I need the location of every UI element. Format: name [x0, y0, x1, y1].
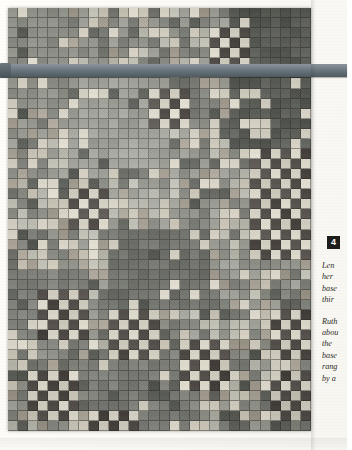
quilt-patch [271, 330, 281, 340]
quilt-patch [170, 139, 180, 149]
quilt-patch [99, 199, 109, 209]
quilt-patch [48, 78, 58, 88]
quilt-patch [220, 401, 230, 411]
quilt-patch [271, 99, 281, 109]
quilt-patch [291, 139, 301, 149]
quilt-patch [99, 280, 109, 290]
quilt-patch [160, 260, 170, 270]
quilt-patch [89, 350, 99, 360]
quilt-patch [291, 411, 301, 421]
quilt-patch [230, 99, 240, 109]
quilt-patch [190, 240, 200, 250]
quilt-patch [48, 411, 58, 421]
quilt-patch [240, 219, 250, 229]
quilt-patch [301, 350, 311, 360]
quilt-patch [18, 89, 28, 99]
quilt-patch [139, 78, 149, 88]
quilt-patch [18, 209, 28, 219]
quilt-patch [38, 350, 48, 360]
quilt-patch [28, 8, 38, 18]
quilt-patch [48, 250, 58, 260]
quilt-patch [180, 330, 190, 340]
quilt-patch [119, 219, 129, 229]
quilt-patch [291, 270, 301, 280]
quilt-patch [210, 240, 220, 250]
quilt-patch [261, 310, 271, 320]
quilt-patch [99, 169, 109, 179]
quilt-patch [48, 169, 58, 179]
quilt-patch [109, 260, 119, 270]
quilt-patch [301, 300, 311, 310]
quilt-patch [48, 340, 58, 350]
quilt-patch [129, 310, 139, 320]
quilt-patch [119, 320, 129, 330]
quilt-patch [281, 300, 291, 310]
quilt-patch [48, 209, 58, 219]
quilt-patch [59, 209, 69, 219]
quilt-patch [109, 89, 119, 99]
quilt-patch [48, 199, 58, 209]
quilt-patch [89, 28, 99, 38]
quilt-patch [271, 119, 281, 129]
quilt-patch [89, 290, 99, 300]
quilt-patch [129, 401, 139, 411]
quilt-patch [38, 189, 48, 199]
quilt-patch [190, 320, 200, 330]
quilt-patch [139, 109, 149, 119]
quilt-patch [271, 159, 281, 169]
quilt-patch [210, 330, 220, 340]
quilt-patch [18, 330, 28, 340]
quilt-patch [139, 350, 149, 360]
quilt-patch [48, 260, 58, 270]
quilt-patch [291, 391, 301, 401]
quilt-patch [240, 169, 250, 179]
quilt-patch [240, 260, 250, 270]
quilt-patch [38, 360, 48, 370]
quilt-patch [79, 300, 89, 310]
quilt-patch [271, 350, 281, 360]
quilt-patch [8, 250, 18, 260]
quilt-patch [38, 230, 48, 240]
quilt-patch [180, 270, 190, 280]
quilt-patch [210, 350, 220, 360]
quilt-patch [109, 169, 119, 179]
quilt-patch [301, 250, 311, 260]
quilt-patch [59, 18, 69, 28]
quilt-patch [240, 280, 250, 290]
quilt-patch [170, 230, 180, 240]
quilt-patch [170, 169, 180, 179]
quilt-patch [160, 119, 170, 129]
quilt-patch [160, 169, 170, 179]
quilt-patch [109, 371, 119, 381]
quilt-patch [230, 89, 240, 99]
caption-line: thir [322, 294, 352, 305]
quilt-patch [149, 350, 159, 360]
quilt-patch [89, 189, 99, 199]
quilt-patch [180, 240, 190, 250]
quilt-patch [149, 219, 159, 229]
quilt-patch [48, 391, 58, 401]
quilt-patch [250, 48, 260, 58]
quilt-patch [271, 78, 281, 88]
quilt-patch [261, 330, 271, 340]
quilt-patch [59, 230, 69, 240]
quilt-patch [250, 320, 260, 330]
quilt-patch [129, 38, 139, 48]
quilt-patch [28, 219, 38, 229]
quilt-patch [180, 381, 190, 391]
quilt-patch [89, 78, 99, 88]
quilt-patch [79, 89, 89, 99]
quilt-patch [250, 381, 260, 391]
quilt-patch [79, 139, 89, 149]
quilt-patch [8, 28, 18, 38]
quilt-patch [200, 371, 210, 381]
quilt-patch [281, 109, 291, 119]
quilt-patch [160, 199, 170, 209]
quilt-patch [109, 119, 119, 129]
quilt-patch [8, 169, 18, 179]
quilt-patch [301, 48, 311, 58]
quilt-patch [8, 199, 18, 209]
quilt-patch [301, 199, 311, 209]
quilt-patch [48, 189, 58, 199]
quilt-patch [38, 38, 48, 48]
